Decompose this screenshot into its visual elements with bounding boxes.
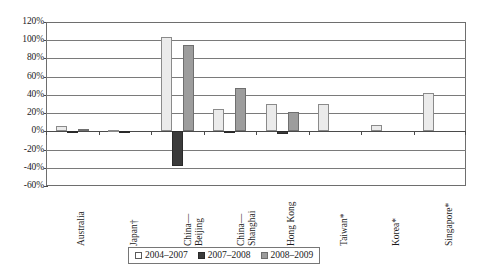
legend-swatch-2004-2007 xyxy=(135,252,142,259)
bar xyxy=(235,88,246,132)
x-axis-tick-mark xyxy=(256,131,257,135)
plot-area xyxy=(46,22,466,186)
bar-group xyxy=(46,22,99,186)
bar xyxy=(172,131,183,166)
x-axis-label-line: Beijing xyxy=(194,214,205,246)
bar xyxy=(108,130,119,132)
x-axis-category-label: China—Beijing xyxy=(183,214,204,246)
y-axis-tick-label: -40% xyxy=(0,163,44,173)
y-axis-tick-label: 20% xyxy=(0,108,44,118)
legend-item: 2008–2009 xyxy=(261,250,314,261)
x-axis-category-label: Singapore* xyxy=(444,203,455,246)
x-axis-category-label: Taiwan* xyxy=(339,213,350,246)
bar xyxy=(371,125,382,131)
legend-label: 2004–2007 xyxy=(145,250,188,261)
chart-legend: 2004–20072007–20082008–2009 xyxy=(128,247,320,264)
x-axis-tick-mark xyxy=(151,131,152,135)
legend-item: 2004–2007 xyxy=(135,250,188,261)
y-axis-tick-label: 80% xyxy=(0,53,44,63)
y-axis-tick-mark xyxy=(44,186,48,187)
x-axis-label-line: Taiwan* xyxy=(339,213,350,246)
bar-group xyxy=(99,22,152,186)
x-axis-label-line: Shanghai xyxy=(246,211,257,246)
x-axis-category-label: Japan† xyxy=(129,220,140,246)
legend-label: 2008–2009 xyxy=(271,250,314,261)
bar-group xyxy=(309,22,362,186)
legend-item: 2007–2008 xyxy=(198,250,251,261)
y-axis-tick-label: 60% xyxy=(0,72,44,82)
bar xyxy=(266,104,277,131)
bar xyxy=(213,109,224,132)
x-axis-tick-mark xyxy=(46,131,47,135)
x-axis-label-line: Australia xyxy=(76,211,87,246)
y-axis-tick-label: 40% xyxy=(0,90,44,100)
bar xyxy=(277,131,288,134)
legend-label: 2007–2008 xyxy=(208,250,251,261)
x-axis-category-label: Hong Kong xyxy=(286,201,297,246)
x-axis-tick-mark xyxy=(414,131,415,135)
x-axis-category-label: Australia xyxy=(76,211,87,246)
y-axis: 120%100%80%60%40%20%0%-20%-40%-60% xyxy=(0,22,44,186)
x-axis-label-line: Singapore* xyxy=(444,203,455,246)
bar xyxy=(288,112,299,131)
bar-group xyxy=(414,22,467,186)
x-axis-label-line: China— xyxy=(236,211,247,246)
y-axis-tick-label: 0% xyxy=(0,126,44,136)
legend-swatch-2007-2008 xyxy=(198,252,205,259)
bar xyxy=(78,129,89,132)
bar xyxy=(318,104,329,131)
bar xyxy=(119,131,130,133)
x-axis-labels: AustraliaJapan†China—BeijingChina—Shangh… xyxy=(46,188,466,250)
x-axis-label-line: Hong Kong xyxy=(286,201,297,246)
x-axis-label-line: Japan† xyxy=(129,220,140,246)
bar-group xyxy=(151,22,204,186)
x-axis-tick-mark xyxy=(204,131,205,135)
x-axis-category-label: Korea* xyxy=(391,218,402,246)
x-axis-label-line: China— xyxy=(183,214,194,246)
x-axis-category-label: China—Shanghai xyxy=(236,211,257,246)
x-axis-label-line: Korea* xyxy=(391,218,402,246)
x-axis-tick-mark xyxy=(309,131,310,135)
bar-group xyxy=(361,22,414,186)
bar-group xyxy=(256,22,309,186)
x-axis-tick-mark xyxy=(99,131,100,135)
chart-container: 120%100%80%60%40%20%0%-20%-40%-60% Austr… xyxy=(0,0,485,273)
y-axis-tick-label: -20% xyxy=(0,145,44,155)
bar xyxy=(67,131,78,133)
y-axis-tick-label: 100% xyxy=(0,35,44,45)
bar xyxy=(224,131,235,133)
x-axis-tick-mark xyxy=(361,131,362,135)
y-axis-tick-label: -60% xyxy=(0,181,44,191)
bar-group xyxy=(204,22,257,186)
bar xyxy=(56,126,67,131)
y-axis-tick-label: 120% xyxy=(0,17,44,27)
bar xyxy=(161,37,172,131)
bar xyxy=(423,93,434,131)
x-axis-tick-mark xyxy=(465,131,466,135)
legend-swatch-2008-2009 xyxy=(261,252,268,259)
bar xyxy=(183,45,194,132)
